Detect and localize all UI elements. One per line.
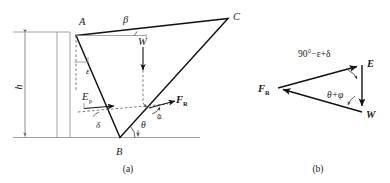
angle-label-phi: φ — [153, 112, 164, 121]
angle-label-theta: θ — [141, 120, 146, 130]
angle-label-top-b: 90°−ε+δ — [298, 49, 331, 59]
fr-symbol: F — [175, 94, 183, 105]
fr-subscript-b: R — [265, 89, 270, 96]
triangle-side-fr-to-e — [278, 67, 357, 89]
force-label-resultant: F R — [175, 94, 188, 107]
angle-label-bottom-b: θ+φ — [327, 90, 343, 100]
theta-angle-arc — [131, 127, 135, 138]
vertex-label-a: A — [78, 16, 86, 27]
vertex-label-w-b: W — [366, 109, 376, 120]
height-dimension: h — [13, 32, 57, 138]
angle-arc-bottom-b — [348, 96, 355, 105]
fr-symbol-b: F — [257, 83, 265, 94]
vertex-label-c: C — [233, 11, 241, 22]
vertex-label-e-b: E — [366, 58, 374, 69]
angle-label-beta: β — [122, 14, 129, 25]
force-triangle — [278, 65, 362, 112]
panel-a: h — [13, 11, 241, 175]
retaining-wall — [57, 32, 70, 138]
weight-application-arrow — [143, 103, 147, 108]
wall-front-face — [57, 32, 70, 138]
angle-arc-top-b — [348, 70, 357, 79]
weight-vector — [143, 47, 147, 108]
ep-arrow — [84, 106, 114, 109]
fr-subscript: R — [183, 100, 188, 107]
beta-angle-arc — [134, 32, 137, 36]
vertex-label-b: B — [116, 146, 123, 157]
figure-canvas: h — [0, 0, 390, 183]
figure-root: h — [0, 0, 390, 183]
height-label: h — [13, 85, 24, 90]
panel-caption-a: (a) — [123, 164, 134, 175]
delta-angle-arc — [93, 112, 99, 117]
angle-label-epsilon: ε — [86, 66, 90, 76]
force-label-weight: W — [138, 36, 148, 47]
panel-b: 90°−ε+δ θ+φ F R E W (b) — [257, 49, 376, 175]
resultant-vector — [149, 101, 175, 114]
ep-symbol: E — [81, 91, 89, 102]
force-label-earth-pressure: E p — [81, 91, 92, 104]
panel-caption-b: (b) — [312, 164, 323, 175]
vertex-label-fr-b: F R — [257, 83, 270, 96]
angle-label-delta: δ — [96, 120, 101, 130]
ep-subscript: p — [89, 97, 92, 104]
